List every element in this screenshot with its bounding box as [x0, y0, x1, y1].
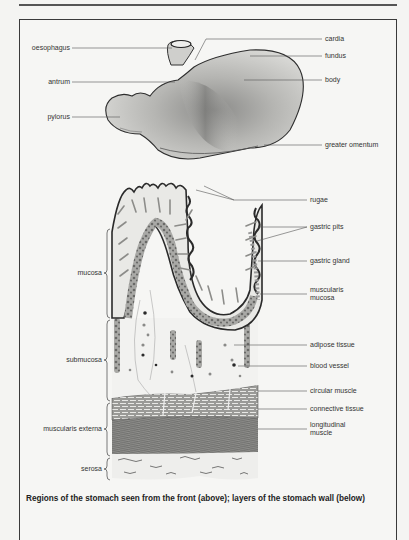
label-gastric-gland: gastric gland	[310, 257, 350, 265]
label-submucosa: submucosa	[20, 356, 102, 364]
stomach-wall-drawing	[112, 183, 262, 479]
figure-caption: Regions of the stomach seen from the fro…	[26, 494, 391, 504]
label-body: body	[325, 76, 340, 84]
label-cardia: cardia	[325, 35, 344, 43]
label-gastric-pits: gastric pits	[310, 223, 343, 231]
label-fundus: fundus	[325, 52, 346, 60]
label-muscularis-mucosa: muscularis mucosa	[310, 286, 343, 302]
label-circular-muscle: circular muscle	[310, 387, 357, 395]
label-pylorus: pylorus	[22, 113, 70, 121]
label-muscularis-mucosa-line1: muscularis	[310, 286, 343, 294]
label-serosa: serosa	[20, 465, 102, 473]
label-antrum: antrum	[22, 78, 70, 86]
label-longitudinal-muscle: longitudinal muscle	[310, 421, 345, 437]
label-blood-vessel: blood vessel	[310, 362, 349, 370]
label-oesophagus: oesophagus	[22, 44, 70, 52]
label-connective-tissue: connective tissue	[310, 405, 364, 413]
label-longitudinal-muscle-line1: longitudinal	[310, 421, 345, 429]
label-mucosa: mucosa	[20, 269, 102, 277]
label-muscularis-externa: muscularis externa	[20, 425, 102, 433]
label-longitudinal-muscle-line2: muscle	[310, 429, 345, 437]
label-rugae: rugae	[310, 196, 328, 204]
label-muscularis-mucosa-line2: mucosa	[310, 294, 343, 302]
label-adipose-tissue: adipose tissue	[310, 341, 355, 349]
label-greater-omentum: greater omentum	[325, 141, 378, 149]
layer-brackets	[104, 229, 110, 480]
stomach-drawing	[106, 41, 304, 160]
